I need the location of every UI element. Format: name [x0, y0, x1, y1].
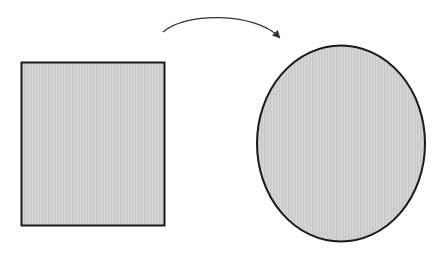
arrow-icon: [163, 18, 279, 37]
diagram-canvas: [0, 0, 446, 253]
ellipse-shape: [257, 46, 425, 242]
rectangle-shape: [22, 63, 165, 226]
curved-arrow-connector: [163, 18, 279, 37]
